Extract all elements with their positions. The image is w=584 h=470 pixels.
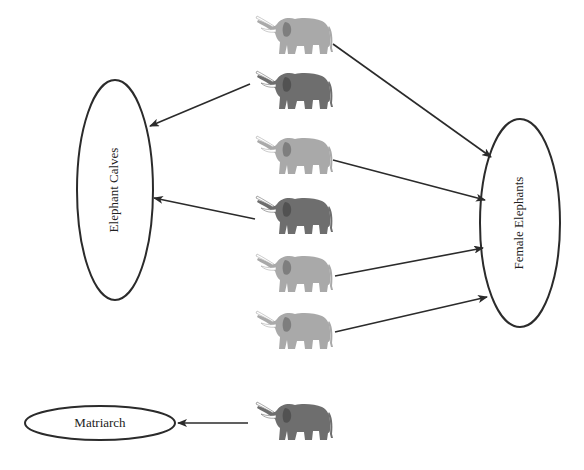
arrow-e1-to-females bbox=[333, 44, 491, 157]
arrow-e3-to-females bbox=[333, 160, 485, 200]
elephant-icon-4 bbox=[256, 196, 333, 234]
arrow-e4-to-calves bbox=[154, 198, 255, 219]
arrow-e6-to-females bbox=[335, 297, 487, 332]
elephants bbox=[256, 16, 333, 440]
arrow-e5-to-females bbox=[335, 248, 483, 276]
node-female-elephants: Female Elephants bbox=[480, 119, 560, 327]
matriarch-label: Matriarch bbox=[74, 415, 126, 430]
female-elephants-label: Female Elephants bbox=[511, 177, 526, 270]
elephant-icon-5 bbox=[256, 254, 333, 292]
elephant-icon-3 bbox=[256, 136, 333, 174]
elephant-icon-6 bbox=[256, 311, 333, 349]
elephant-calves-label: Elephant Calves bbox=[106, 148, 121, 233]
elephant-icon-2 bbox=[256, 71, 333, 109]
arrow-e2-to-calves bbox=[150, 84, 250, 126]
diagram-canvas: Elephant Calves Female Elephants Matriar… bbox=[0, 0, 584, 470]
node-elephant-calves: Elephant Calves bbox=[77, 80, 153, 300]
node-matriarch: Matriarch bbox=[25, 406, 175, 440]
elephant-icon-1 bbox=[256, 16, 333, 54]
elephant-icon-7 bbox=[256, 402, 333, 440]
